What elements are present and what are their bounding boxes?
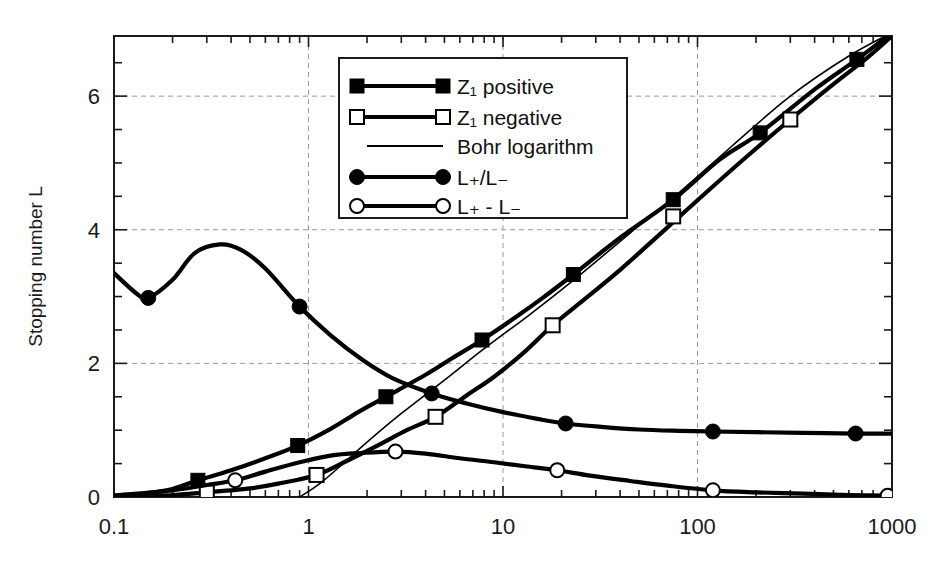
y-tick-label: 4 bbox=[88, 218, 100, 243]
y-tick-label: 6 bbox=[88, 84, 100, 109]
legend-label: Z₁ positive bbox=[457, 75, 554, 98]
data-marker bbox=[666, 209, 680, 223]
legend-marker bbox=[350, 170, 365, 185]
data-marker bbox=[379, 390, 393, 404]
legend-marker bbox=[436, 110, 450, 124]
data-marker bbox=[705, 424, 720, 439]
data-marker bbox=[783, 113, 797, 127]
y-axis-title: Stopping number L bbox=[25, 186, 46, 347]
legend-label: Z₁ negative bbox=[457, 106, 562, 129]
data-marker bbox=[228, 473, 242, 487]
x-tick-label: 1000 bbox=[868, 514, 917, 539]
data-marker bbox=[753, 126, 767, 140]
x-tick-label: 0.1 bbox=[99, 514, 130, 539]
data-marker bbox=[141, 290, 156, 305]
x-tick-label: 10 bbox=[491, 514, 515, 539]
data-marker bbox=[666, 193, 680, 207]
data-marker bbox=[388, 445, 402, 459]
data-marker bbox=[550, 463, 564, 477]
data-marker bbox=[475, 333, 489, 347]
y-axis-label: Stopping number L bbox=[25, 186, 46, 347]
chart-figure: 0.111010010000246 Stopping number L Z₁ p… bbox=[0, 0, 948, 567]
data-marker bbox=[291, 439, 305, 453]
stopping-number-chart: 0.111010010000246 Stopping number L Z₁ p… bbox=[0, 0, 948, 567]
data-marker bbox=[546, 318, 560, 332]
x-tick-label: 1 bbox=[302, 514, 314, 539]
data-marker bbox=[706, 483, 720, 497]
legend-label: Bohr logarithm bbox=[457, 135, 594, 158]
data-marker bbox=[429, 410, 443, 424]
data-marker bbox=[424, 386, 439, 401]
data-marker bbox=[558, 416, 573, 431]
legend-marker bbox=[350, 110, 364, 124]
legend-marker bbox=[436, 199, 450, 213]
legend-marker bbox=[436, 170, 451, 185]
y-tick-label: 2 bbox=[88, 351, 100, 376]
data-marker bbox=[310, 468, 324, 482]
legend-label: L₊ - L₋ bbox=[457, 195, 521, 218]
legend-marker bbox=[350, 79, 364, 93]
data-marker bbox=[848, 426, 863, 441]
legend-label: L₊/L₋ bbox=[457, 166, 508, 189]
x-tick-label: 100 bbox=[679, 514, 716, 539]
legend: Z₁ positiveZ₁ negativeBohr logarithmL₊/L… bbox=[339, 58, 627, 218]
data-marker bbox=[292, 299, 307, 314]
legend-marker bbox=[436, 79, 450, 93]
y-tick-label: 0 bbox=[88, 485, 100, 510]
legend-marker bbox=[350, 199, 364, 213]
